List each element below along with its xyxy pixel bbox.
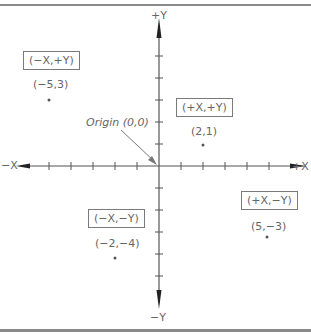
point-5-neg3 bbox=[266, 236, 269, 239]
point-2-1 bbox=[202, 144, 205, 147]
quadrant-box-4: (+X,−Y) bbox=[241, 191, 298, 210]
origin-leader-line bbox=[121, 130, 155, 162]
neg-y-arrow-icon bbox=[157, 290, 162, 309]
quadrant-box-3: (−X,−Y) bbox=[88, 209, 145, 228]
point-label-3: (−2,−4) bbox=[95, 238, 140, 249]
point-neg5-3 bbox=[48, 99, 51, 102]
point-label-4: (5,−3) bbox=[251, 221, 286, 232]
neg-x-label: −X bbox=[1, 160, 18, 171]
pos-y-label: +Y bbox=[151, 10, 167, 21]
neg-x-arrow-icon bbox=[16, 164, 30, 169]
quadrant-box-2: (−X,+Y) bbox=[23, 51, 80, 70]
pos-x-label: +X bbox=[292, 161, 309, 172]
point-neg2-neg4 bbox=[114, 257, 117, 260]
quadrant-box-1: (+X,+Y) bbox=[176, 98, 233, 117]
point-label-1: (2,1) bbox=[191, 126, 217, 137]
origin-label: Origin (0,0) bbox=[86, 117, 149, 128]
neg-y-label: −Y bbox=[150, 312, 166, 323]
point-label-2: (−5,3) bbox=[33, 79, 68, 90]
